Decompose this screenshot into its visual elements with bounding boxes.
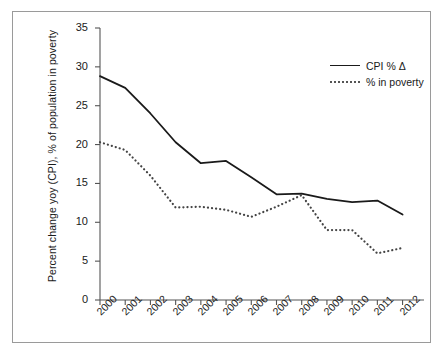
series-line-1	[100, 76, 403, 214]
legend-item-cpi: CPI % Δ	[330, 58, 424, 74]
solid-line-swatch-icon	[330, 61, 360, 71]
legend-item-poverty: % in poverty	[330, 74, 424, 90]
chart-figure: Percent change yoy (CPI), % of populatio…	[0, 0, 442, 354]
y-tick-label: 15	[62, 176, 88, 188]
chart-legend: CPI % Δ % in poverty	[330, 58, 424, 90]
y-tick-label: 0	[62, 293, 88, 305]
y-tick-label: 20	[62, 138, 88, 150]
y-tick-label: 25	[62, 99, 88, 111]
legend-label-cpi: CPI % Δ	[366, 60, 406, 72]
y-tick-label: 5	[62, 254, 88, 266]
legend-label-poverty: % in poverty	[366, 76, 424, 88]
series-line-2	[100, 142, 403, 253]
dotted-line-swatch-icon	[330, 77, 360, 87]
y-tick-label: 10	[62, 215, 88, 227]
data-series-layer	[100, 76, 403, 253]
y-tick-label: 35	[62, 21, 88, 33]
y-axis-ticks	[95, 28, 100, 300]
y-tick-label: 30	[62, 60, 88, 72]
